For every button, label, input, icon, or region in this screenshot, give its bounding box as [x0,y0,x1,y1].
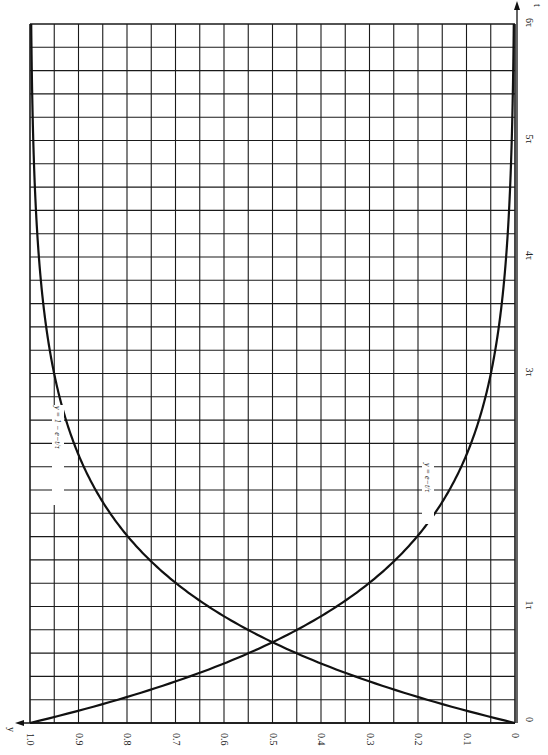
y-tick-label: 0.1 [462,733,473,746]
y-tick-label: 0.3 [365,733,376,746]
t-tick-label: 4τ [524,251,535,260]
decay-curve-label: y = e−t/τ [423,462,432,493]
t-tick-label: 5τ [524,135,535,144]
t-axis-label: t [532,4,543,7]
curve-labels: y = 1 − e−t/τy = e−t/τ [52,405,434,524]
growth-curve-label: y = 1 − e−t/τ [53,405,62,450]
t-tick-label: 1τ [524,601,535,610]
y-tick-label: 0.6 [219,733,230,746]
y-tick-label: 0.8 [122,733,133,746]
axes: yt [6,1,543,732]
y-tick-label: 0.9 [74,733,85,746]
t-tick-label: 6τ [524,18,535,27]
t-axis-ticks: 01τ3τ4τ5τ6τ [524,18,535,722]
exponential-chart: yt 1.00.90.80.70.60.50.40.30.20.10 01τ3τ… [0,0,548,755]
t-tick-label: 0 [524,717,535,722]
y-tick-label: 0.7 [171,733,182,746]
y-tick-label: 0 [510,733,521,738]
y-tick-label: 1.0 [25,733,36,746]
grid [30,24,515,723]
t-axis-arrow-icon [514,1,520,10]
y-axis-label: y [6,727,17,732]
y-axis-ticks: 1.00.90.80.70.60.50.40.30.20.10 [25,733,521,746]
y-tick-label: 0.5 [268,733,279,746]
y-tick-label: 0.2 [413,733,424,746]
t-tick-label: 3τ [524,368,535,377]
y-axis-arrow-icon [15,720,24,726]
y-tick-label: 0.4 [316,733,327,746]
